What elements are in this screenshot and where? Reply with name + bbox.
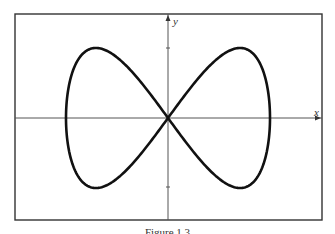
figure-caption: Figure 1.3 xyxy=(0,226,335,234)
y-axis-arrow-icon xyxy=(166,15,171,21)
x-axis-label: x xyxy=(313,106,319,118)
y-axis-label: y xyxy=(172,15,178,27)
figure-canvas: y x xyxy=(0,0,335,234)
